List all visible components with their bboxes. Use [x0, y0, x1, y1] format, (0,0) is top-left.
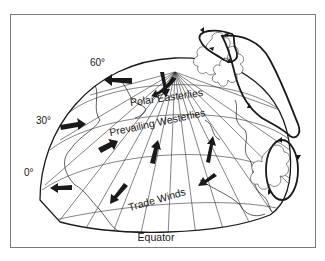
latitude-60-label: 60°	[90, 57, 105, 68]
latitude-0-label: 0°	[24, 167, 34, 178]
arrowhead-icon	[200, 27, 204, 33]
equator-label: Equator	[138, 231, 175, 243]
wind-circulation-diagram: 60° 30° 0° Polar Easterlies Prevailing W…	[0, 0, 325, 261]
latitude-30-label: 30°	[36, 115, 51, 126]
